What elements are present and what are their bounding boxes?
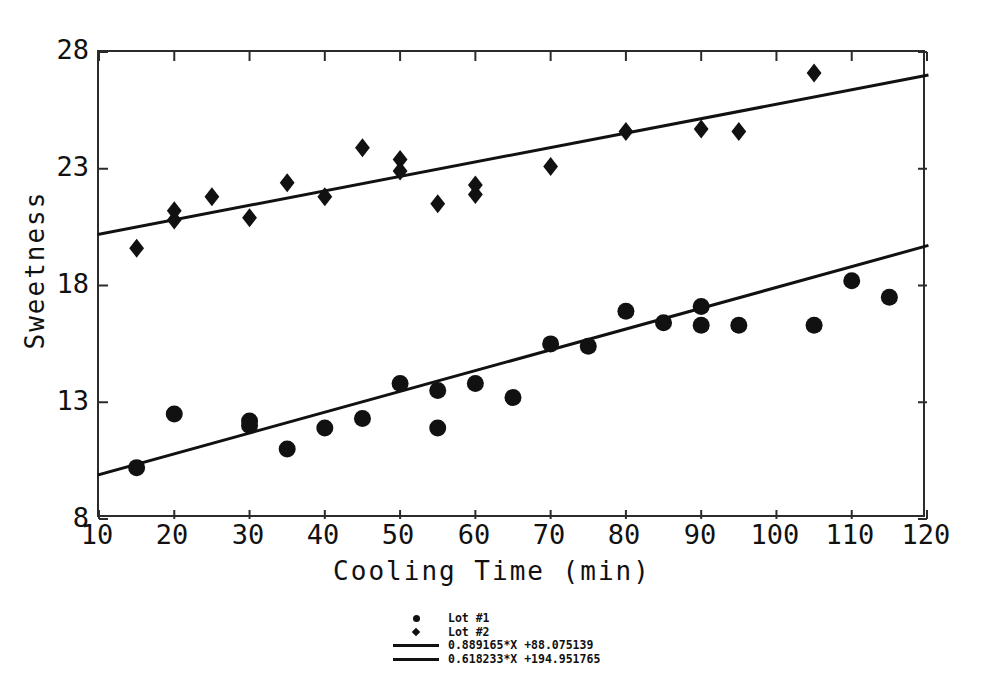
data-point-diamond (430, 194, 445, 213)
data-point-diamond (543, 157, 558, 176)
x-tick-label: 50 (363, 521, 433, 548)
chart-legend: Lot #1 Lot #2 0.889165*X +88.075139 0.61… (388, 612, 600, 666)
data-point-circle (505, 389, 522, 406)
axis-ticks (99, 52, 927, 519)
data-point-diamond (242, 208, 257, 227)
data-point-circle (467, 375, 484, 392)
data-point-circle (354, 410, 371, 427)
legend-item-label: Lot #2 (444, 626, 490, 640)
data-point-circle (166, 405, 183, 422)
x-tick-label: 80 (589, 521, 659, 548)
data-point-circle (806, 317, 823, 334)
data-point-circle (693, 298, 710, 315)
x-axis-title: Cooling Time (min) (0, 556, 984, 586)
data-point-circle (881, 289, 898, 306)
data-point-circle (580, 338, 597, 355)
data-point-circle (693, 317, 710, 334)
x-tick-label: 110 (815, 521, 885, 548)
fit-lines (99, 75, 927, 474)
data-point-circle (429, 419, 446, 436)
data-point-circle (241, 417, 258, 434)
legend-item: Lot #1 (388, 612, 600, 626)
data-point-diamond (694, 120, 709, 139)
x-tick-label: 100 (740, 521, 810, 548)
data-point-circle (279, 440, 296, 457)
x-tick-label: 40 (288, 521, 358, 548)
chart-canvas (99, 52, 927, 519)
data-point-circle (316, 419, 333, 436)
line-swatch-icon (388, 658, 444, 661)
data-point-diamond (280, 173, 295, 192)
chart-page: 28 23 18 13 8 10 20 30 40 50 60 70 80 90… (0, 0, 984, 691)
line-swatch-icon (388, 644, 444, 647)
circle-marker-icon (388, 615, 444, 622)
legend-item: 0.889165*X +88.075139 (388, 639, 600, 653)
x-tick-label: 20 (137, 521, 207, 548)
legend-item: Lot #2 (388, 626, 600, 640)
data-point-diamond (129, 239, 144, 258)
legend-item-label: 0.889165*X +88.075139 (444, 639, 593, 653)
data-point-circle (730, 317, 747, 334)
data-point-circle (392, 375, 409, 392)
data-series-circle (128, 272, 898, 476)
regression-line (99, 75, 927, 234)
data-point-circle (617, 303, 634, 320)
data-point-diamond (355, 138, 370, 157)
y-tick-label: 28 (31, 36, 89, 63)
data-point-circle (843, 272, 860, 289)
y-axis-title: Sweetness (20, 140, 50, 400)
legend-item-label: 0.618233*X +194.951765 (444, 653, 600, 667)
plot-frame (97, 50, 925, 517)
regression-line (99, 246, 927, 475)
x-tick-label: 90 (665, 521, 735, 548)
plot-area (99, 52, 923, 515)
data-point-circle (542, 335, 559, 352)
x-tick-label: 70 (514, 521, 584, 548)
data-point-circle (128, 459, 145, 476)
x-tick-label: 10 (62, 521, 132, 548)
data-point-circle (429, 382, 446, 399)
data-point-diamond (731, 122, 746, 141)
x-tick-label: 60 (439, 521, 509, 548)
data-point-diamond (807, 64, 822, 83)
x-tick-label: 30 (213, 521, 283, 548)
legend-item: 0.618233*X +194.951765 (388, 653, 600, 667)
data-point-diamond (204, 187, 219, 206)
diamond-marker-icon (388, 629, 444, 635)
data-point-circle (655, 314, 672, 331)
legend-item-label: Lot #1 (444, 612, 490, 626)
x-tick-label: 120 (891, 521, 961, 548)
data-point-diamond (618, 122, 633, 141)
